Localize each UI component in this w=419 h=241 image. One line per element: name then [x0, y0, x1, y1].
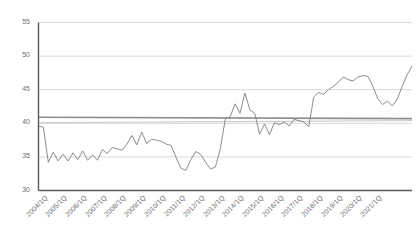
y-tick-label-50: 50 [8, 51, 30, 58]
chart-container: 303540455055 2004/1Q2005/1Q2006/1Q2007/1… [0, 0, 419, 241]
upper-reference-line [39, 117, 413, 118]
y-tick-label-35: 35 [8, 152, 30, 159]
y-tick-label-40: 40 [8, 118, 30, 125]
y-tick-label-45: 45 [8, 85, 30, 92]
y-tick-label-30: 30 [8, 186, 30, 193]
y-tick-label-55: 55 [8, 18, 30, 25]
